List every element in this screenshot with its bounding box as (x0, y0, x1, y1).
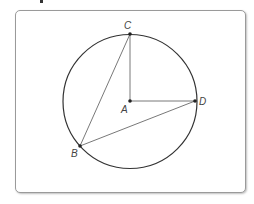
label-D: D (199, 96, 206, 107)
circle-diagram: A C D B (0, 0, 254, 204)
point-C (128, 32, 132, 36)
label-C: C (124, 20, 132, 31)
label-A: A (120, 104, 128, 115)
point-D (193, 99, 197, 103)
point-A (128, 99, 132, 103)
label-B: B (71, 148, 78, 159)
point-B (78, 144, 82, 148)
